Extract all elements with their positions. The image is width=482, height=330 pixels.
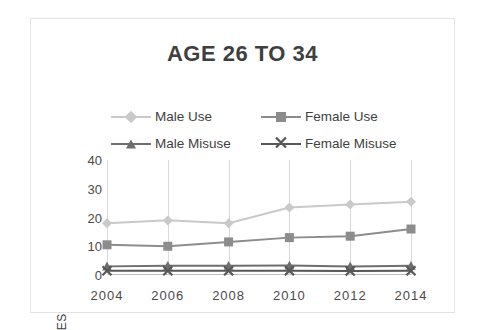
- legend-label: Female Use: [305, 109, 378, 124]
- series-layer: [107, 160, 412, 275]
- x-axis-tick: 2006: [151, 288, 184, 303]
- legend-label: Male Misuse: [155, 136, 231, 151]
- y-axis-tick: 0: [76, 268, 102, 283]
- legend-row: Male Use Female Use: [111, 103, 411, 130]
- data-point[interactable]: [163, 215, 173, 225]
- y-axis-tick: 40: [76, 153, 102, 168]
- data-point[interactable]: [163, 242, 172, 251]
- square-marker-icon: [261, 110, 301, 124]
- legend-item-female-misuse[interactable]: Female Misuse: [261, 136, 411, 151]
- data-point[interactable]: [103, 240, 112, 249]
- triangle-marker-icon: [111, 137, 151, 151]
- legend-item-male-use[interactable]: Male Use: [111, 109, 261, 124]
- data-point[interactable]: [285, 233, 294, 242]
- y-axis-tick: 20: [76, 210, 102, 225]
- legend-label: Male Use: [155, 109, 212, 124]
- x-axis-tick: 2010: [273, 288, 306, 303]
- x-axis-tick: 2004: [91, 288, 124, 303]
- data-point[interactable]: [345, 200, 355, 210]
- x-axis-tick: 2008: [212, 288, 245, 303]
- data-point[interactable]: [102, 218, 112, 228]
- x-marker-icon: [261, 137, 301, 151]
- y-axis-tick: 10: [76, 239, 102, 254]
- series-line: [107, 266, 411, 267]
- chart-title: AGE 26 TO 34: [31, 41, 454, 67]
- legend-label: Female Misuse: [305, 136, 397, 151]
- series-female-misuse: [103, 266, 416, 275]
- series-line: [107, 229, 411, 246]
- legend-item-male-misuse[interactable]: Male Misuse: [111, 136, 261, 151]
- legend-item-female-use[interactable]: Female Use: [261, 109, 411, 124]
- chart-legend: Male Use Female Use Male Misuse: [111, 103, 411, 157]
- series-line: [107, 202, 411, 224]
- y-axis-label: PERCENTAGES: [55, 306, 69, 330]
- x-axis-tick: 2014: [395, 288, 428, 303]
- data-point[interactable]: [224, 237, 233, 246]
- plot-canvas: 200420062008201020122014: [107, 160, 412, 275]
- plot-area: PERCENTAGES 010203040 200420062008201020…: [0, 150, 482, 315]
- series-male-misuse: [102, 261, 416, 271]
- data-point[interactable]: [406, 197, 416, 207]
- x-axis-tick: 2012: [334, 288, 367, 303]
- diamond-marker-icon: [111, 110, 151, 124]
- series-female-use: [103, 225, 416, 251]
- data-point[interactable]: [407, 225, 416, 234]
- series-male-use: [102, 197, 416, 229]
- data-point[interactable]: [346, 232, 355, 241]
- data-point[interactable]: [284, 202, 294, 212]
- data-point[interactable]: [224, 218, 234, 228]
- y-axis-tick: 30: [76, 181, 102, 196]
